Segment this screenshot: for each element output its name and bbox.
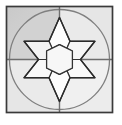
- geometric-figure-svg: [0, 0, 122, 125]
- central-hexagon: [47, 45, 73, 75]
- figure-container: [0, 0, 122, 125]
- square-contents: [7, 7, 113, 113]
